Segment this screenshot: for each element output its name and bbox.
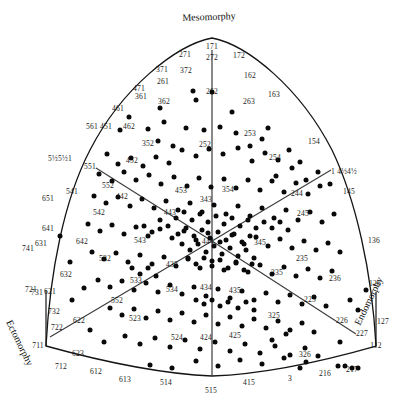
somatotype-cell-label: 371 (156, 65, 168, 74)
data-point (140, 197, 145, 202)
data-point (218, 258, 223, 263)
data-point (343, 364, 348, 369)
data-point (141, 164, 146, 169)
data-point (98, 229, 103, 234)
somatotype-cell-label: 236 (329, 274, 341, 283)
data-point (202, 302, 207, 307)
data-point (156, 290, 161, 295)
somatotype-cell-label: 136 (368, 236, 380, 245)
somatotype-cell-label: 711 (32, 341, 44, 350)
data-point (290, 166, 295, 171)
data-point (114, 251, 119, 256)
somatotype-cell-label: 631 (35, 239, 47, 248)
data-point (210, 90, 215, 95)
data-point (146, 266, 151, 271)
data-point (130, 266, 135, 271)
data-point (244, 300, 249, 305)
data-point (174, 264, 179, 269)
somatotype-cell-label: 731 (31, 288, 43, 297)
data-point (220, 252, 225, 257)
data-point (240, 289, 245, 294)
data-point (188, 248, 193, 253)
somatotype-cell-label: 642 (76, 237, 88, 246)
data-point (192, 285, 197, 290)
data-point (153, 336, 158, 341)
somatotype-cell-label: 272 (206, 53, 218, 62)
data-point (188, 201, 193, 206)
data-point (204, 294, 209, 299)
somatotype-cell-label: 523 (129, 314, 141, 323)
data-point (234, 186, 239, 191)
data-point (246, 218, 251, 223)
somatotype-cell-label: 561 (86, 122, 98, 131)
somatotype-cell-label: 235 (296, 254, 308, 263)
data-point (116, 162, 121, 167)
data-point (122, 170, 127, 175)
data-point (224, 238, 229, 243)
data-point (167, 161, 172, 166)
data-point (156, 309, 161, 314)
data-point (318, 184, 323, 189)
data-point (210, 264, 215, 269)
data-point (183, 338, 188, 343)
data-point (82, 286, 87, 291)
data-point (182, 210, 187, 215)
data-point (270, 338, 275, 343)
somatotype-cell-label: 3 (288, 374, 292, 383)
data-point (250, 262, 255, 267)
data-point (254, 235, 259, 240)
somatotype-cell-label: 712 (55, 362, 67, 371)
data-point (214, 214, 219, 219)
somatotype-cell-label: 425 (229, 331, 241, 340)
data-point (338, 250, 343, 255)
data-point (350, 366, 355, 371)
data-point (318, 276, 323, 281)
data-point (328, 182, 333, 187)
somatotype-cell-label: 732 (48, 307, 60, 316)
data-point (172, 175, 177, 180)
somatotype-cell-label: 552 (111, 296, 123, 305)
data-point (170, 366, 175, 371)
data-point (158, 218, 163, 223)
data-point (286, 228, 291, 233)
data-point (212, 203, 217, 208)
somatotype-cell-label: 5½5½1 (48, 154, 72, 163)
somatotype-cell-label: 261 (157, 77, 169, 86)
somatotype-cell-label: 515 (205, 386, 217, 395)
data-point (300, 321, 305, 326)
data-point (158, 227, 163, 232)
data-point (132, 307, 137, 312)
somatotype-cell-label: 461 (112, 104, 124, 113)
data-point (226, 300, 231, 305)
data-point (248, 144, 253, 149)
data-point (168, 318, 173, 323)
data-point (276, 300, 281, 305)
data-point (176, 208, 181, 213)
data-point (288, 353, 293, 358)
data-point (154, 274, 159, 279)
somatotype-cell-label: 651 (42, 194, 54, 203)
somatotype-cell-label: 533 (130, 276, 142, 285)
data-point (134, 225, 139, 230)
data-point (216, 287, 221, 292)
data-point (230, 216, 235, 221)
data-point (263, 151, 268, 156)
data-point (304, 178, 309, 183)
data-point (110, 179, 115, 184)
data-point (284, 332, 289, 337)
data-point (282, 190, 287, 195)
data-point (118, 128, 123, 133)
data-point (164, 199, 169, 204)
data-point (278, 237, 283, 242)
data-point (236, 204, 241, 209)
somatotype-cell-label: 162 (244, 71, 256, 80)
data-point (162, 255, 167, 260)
somatotype-cell-label: 524 (171, 333, 183, 342)
somatotype-cell-label: 127 (377, 317, 389, 326)
data-point (204, 250, 209, 255)
data-point (356, 308, 361, 313)
data-point (208, 236, 213, 241)
somatotype-cell-label: 623 (72, 349, 84, 358)
data-point (244, 248, 249, 253)
data-point (197, 176, 202, 181)
